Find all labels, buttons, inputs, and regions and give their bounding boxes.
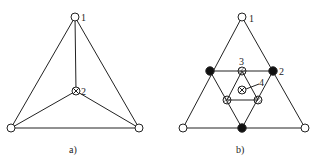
node-open [301, 124, 309, 132]
node-filled [206, 67, 214, 75]
node-filled [269, 67, 277, 75]
node-hatched [254, 96, 262, 104]
figure: 1 2 a) 1 2 3 4 b) [0, 0, 316, 158]
node-label-3: 3 [239, 56, 244, 67]
node-label-2: 2 [279, 66, 284, 77]
edge [75, 17, 139, 128]
caption-a: a) [69, 144, 77, 156]
node-label-1: 1 [81, 12, 86, 23]
edge [227, 71, 242, 100]
node-label-1: 1 [249, 13, 254, 24]
node-label-2: 2 [81, 86, 86, 97]
diagram-a [7, 13, 143, 132]
node-open [7, 124, 15, 132]
node-crossed-icon [238, 86, 246, 94]
node-filled [238, 124, 246, 132]
leader-line [246, 84, 259, 89]
node-open [179, 124, 187, 132]
node-open [238, 13, 246, 21]
diagram-b [179, 13, 309, 132]
node-hatched [238, 67, 246, 75]
edge [11, 91, 76, 128]
node-hatched [223, 96, 231, 104]
node-crossed-icon [72, 87, 80, 95]
node-open [71, 13, 79, 21]
edge [75, 17, 76, 91]
edge [11, 17, 75, 128]
node-label-4: 4 [259, 77, 264, 88]
caption-b: b) [236, 144, 244, 156]
node-open [135, 124, 143, 132]
